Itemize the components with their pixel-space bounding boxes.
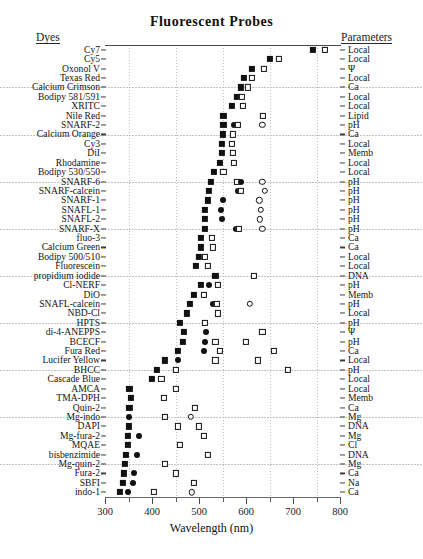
x-tick-major bbox=[199, 498, 200, 504]
chart-row: SBFINa bbox=[0, 478, 423, 487]
row-tick-left bbox=[101, 341, 106, 342]
chart-row: Mg-fura-2Mg bbox=[0, 431, 423, 440]
chart-row: BCECFpH bbox=[0, 337, 423, 346]
x-tick-label: 500 bbox=[191, 506, 207, 517]
x-tick-major bbox=[340, 498, 341, 504]
row-tick-right bbox=[340, 124, 345, 125]
data-point-sq-o bbox=[260, 113, 266, 119]
data-point-sq-f bbox=[191, 291, 197, 297]
data-point-sq-f bbox=[266, 56, 272, 62]
data-point-sq-f bbox=[220, 122, 226, 128]
data-point-sq-f bbox=[149, 376, 155, 382]
chart-row: Mg-quin-2Mg bbox=[0, 459, 423, 468]
data-point-sq-o bbox=[202, 320, 208, 326]
data-point-sq-o bbox=[175, 423, 181, 429]
data-point-sq-f bbox=[175, 348, 181, 354]
x-tick-minor bbox=[270, 498, 271, 502]
row-tick-left bbox=[101, 473, 106, 474]
chart-row: indo-1Ca bbox=[0, 488, 423, 497]
row-tick-left bbox=[101, 266, 106, 267]
row-tick-right bbox=[340, 200, 345, 201]
dye-label: indo-1 bbox=[0, 487, 100, 497]
data-point-sq-o bbox=[321, 47, 327, 53]
row-tick-left bbox=[101, 181, 106, 182]
data-point-sq-f bbox=[193, 263, 199, 269]
data-point-sq-f bbox=[198, 244, 204, 250]
row-tick-left bbox=[101, 209, 106, 210]
row-tick-left bbox=[101, 398, 106, 399]
row-tick-left bbox=[101, 322, 106, 323]
row-tick-right bbox=[340, 435, 345, 436]
row-tick-right bbox=[340, 369, 345, 370]
data-point-sq-o bbox=[192, 404, 198, 410]
row-tick-right bbox=[340, 322, 345, 323]
column-header-parameters: Parameters bbox=[341, 31, 392, 44]
row-tick-right bbox=[340, 416, 345, 417]
data-point-sq-f bbox=[125, 423, 131, 429]
data-point-sq-f bbox=[229, 103, 235, 109]
row-tick-left bbox=[101, 388, 106, 389]
row-tick-left bbox=[101, 360, 106, 361]
data-point-sq-o bbox=[177, 442, 183, 448]
row-tick-right bbox=[340, 172, 345, 173]
data-point-sq-o bbox=[251, 273, 257, 279]
data-point-ci-f bbox=[238, 179, 244, 185]
data-point-sq-o bbox=[217, 348, 223, 354]
x-tick-major bbox=[105, 498, 106, 504]
row-tick-right bbox=[340, 209, 345, 210]
row-tick-right bbox=[340, 228, 345, 229]
data-point-sq-f bbox=[154, 367, 160, 373]
row-tick-right bbox=[340, 162, 345, 163]
data-point-sq-o bbox=[162, 461, 168, 467]
row-tick-right bbox=[340, 285, 345, 286]
x-tick-minor bbox=[317, 498, 318, 502]
data-point-sq-o bbox=[172, 386, 178, 392]
row-tick-right bbox=[340, 313, 345, 314]
row-tick-right bbox=[340, 96, 345, 97]
row-tick-right bbox=[340, 87, 345, 88]
data-point-sq-f bbox=[219, 131, 225, 137]
data-point-ci-o bbox=[259, 225, 265, 231]
x-tick-major bbox=[293, 498, 294, 504]
data-point-sq-o bbox=[196, 423, 202, 429]
data-point-sq-f bbox=[204, 197, 210, 203]
parameter-label: Ca bbox=[348, 487, 359, 497]
chart-row: SNARF-XpH bbox=[0, 224, 423, 233]
row-tick-right bbox=[340, 360, 345, 361]
data-point-sq-o bbox=[210, 244, 216, 250]
row-tick-right bbox=[340, 379, 345, 380]
data-point-sq-f bbox=[121, 470, 127, 476]
data-point-sq-f bbox=[123, 452, 129, 458]
data-point-sq-o bbox=[151, 489, 157, 495]
row-tick-left bbox=[101, 407, 106, 408]
data-point-ci-f bbox=[125, 489, 131, 495]
row-tick-right bbox=[340, 266, 345, 267]
row-tick-right bbox=[340, 454, 345, 455]
data-point-sq-o bbox=[205, 263, 211, 269]
data-point-sq-o bbox=[229, 141, 235, 147]
data-point-sq-o bbox=[234, 122, 240, 128]
data-point-sq-f bbox=[122, 461, 128, 467]
data-point-sq-o bbox=[212, 357, 218, 363]
data-point-sq-o bbox=[240, 103, 246, 109]
data-point-sq-f bbox=[198, 235, 204, 241]
x-tick-label: 300 bbox=[97, 506, 113, 517]
row-tick-left bbox=[101, 492, 106, 493]
data-point-ci-o bbox=[259, 178, 265, 184]
data-point-ci-f bbox=[136, 433, 142, 439]
data-point-sq-f bbox=[120, 480, 126, 486]
x-tick-minor bbox=[176, 498, 177, 502]
data-point-ci-o bbox=[189, 489, 195, 495]
data-point-sq-o bbox=[230, 131, 236, 137]
row-tick-left bbox=[101, 416, 106, 417]
x-tick-minor bbox=[129, 498, 130, 502]
page-title: Fluorescent Probes bbox=[0, 14, 423, 30]
data-point-sq-o bbox=[245, 84, 251, 90]
row-tick-left bbox=[101, 68, 106, 69]
row-tick-left bbox=[101, 190, 106, 191]
data-point-sq-f bbox=[202, 216, 208, 222]
data-point-sq-f bbox=[126, 386, 132, 392]
row-tick-left bbox=[101, 106, 106, 107]
data-point-ci-f bbox=[220, 197, 226, 203]
data-point-sq-o bbox=[201, 433, 207, 439]
